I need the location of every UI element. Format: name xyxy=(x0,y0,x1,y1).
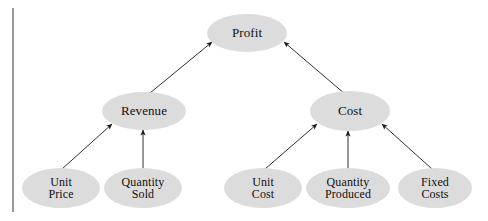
node-ellipse-revenue[interactable] xyxy=(102,92,186,130)
node-ellipse-fixed-costs[interactable] xyxy=(398,168,472,208)
edge-revenue-to-profit xyxy=(150,42,212,93)
node-ellipse-quantity-produced[interactable] xyxy=(306,168,390,208)
edge-cost-to-profit xyxy=(284,42,345,94)
node-ellipse-unit-cost[interactable] xyxy=(224,168,302,208)
node-ellipse-unit-price[interactable] xyxy=(22,168,100,208)
node-ellipse-cost[interactable] xyxy=(310,91,390,131)
diagram-svg xyxy=(0,0,488,221)
node-ellipse-quantity-sold[interactable] xyxy=(104,168,182,208)
edge-fixed-costs-to-cost xyxy=(382,124,432,169)
diagram-canvas: ProfitRevenueCostUnitPriceQuantitySoldUn… xyxy=(0,0,488,221)
edge-unit-cost-to-cost xyxy=(265,124,317,169)
node-ellipse-profit[interactable] xyxy=(207,14,287,52)
node-shape-group xyxy=(22,14,472,208)
edge-unit-price-to-revenue xyxy=(62,124,112,169)
